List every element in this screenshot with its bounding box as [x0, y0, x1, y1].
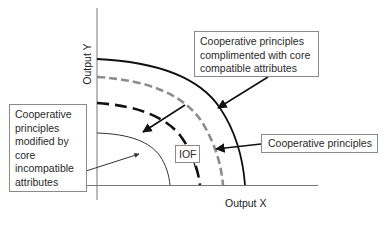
x-axis-label: Output X	[225, 197, 266, 209]
label-iof-text: IOF	[179, 148, 197, 160]
label-box-bottom-right: Cooperative principles	[261, 134, 378, 153]
black-dashed-curve	[97, 103, 200, 185]
label-box-left: Cooperative principles modified by core …	[9, 104, 87, 192]
label-box-iof: IOF	[175, 145, 200, 163]
outer-solid-curve	[97, 59, 245, 185]
inner-thin-curve	[97, 133, 170, 185]
label-bottom-right-text: Cooperative principles	[268, 137, 372, 149]
label-left-text: Cooperative principles modified by core …	[15, 108, 74, 188]
arrow-top-right	[218, 77, 268, 108]
label-box-top-right: Cooperative principles complimented with…	[194, 31, 319, 77]
arrow-left	[86, 154, 139, 171]
gray-dashed-curve	[97, 77, 223, 185]
y-axis-label: Output Y	[81, 34, 93, 94]
arrow-inward-shift	[143, 105, 185, 132]
label-top-right-text: Cooperative principles complimented with…	[200, 35, 310, 74]
